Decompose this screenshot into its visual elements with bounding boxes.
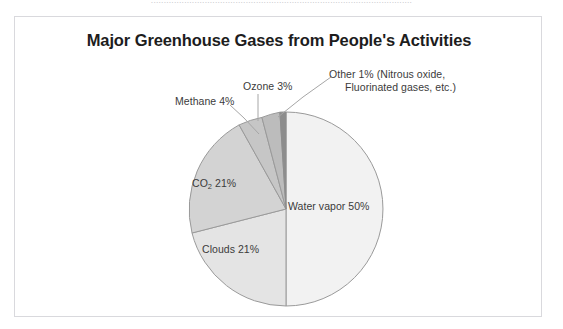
top-cropped-caption: ........................................…	[0, 0, 563, 9]
pie-callout-ozone: Ozone 3%	[243, 80, 292, 93]
pie-label-co2-subscript: 2	[208, 182, 212, 191]
pie-chart: Water vapor 50% Clouds 21% CO2 21% Metha…	[15, 17, 543, 318]
pie-label-co2: CO2 21%	[192, 177, 236, 189]
top-cropped-caption-text: ........................................…	[151, 0, 412, 5]
pie-label-co2-prefix: CO	[192, 177, 208, 189]
pie-label-clouds: Clouds 21%	[202, 243, 259, 255]
figure-frame: Major Greenhouse Gases from People's Act…	[14, 16, 542, 317]
pie-label-water-vapor: Water vapor 50%	[288, 200, 369, 212]
pie-callout-other-line1: Other 1% (Nitrous oxide,	[329, 68, 445, 80]
pie-chart-svg	[15, 17, 543, 318]
pie-callout-methane: Methane 4%	[175, 95, 234, 108]
pie-label-co2-suffix: 21%	[212, 177, 236, 189]
pie-callout-other-line2: Fluorinated gases, etc.)	[329, 81, 456, 94]
pie-callout-other: Other 1% (Nitrous oxide,Fluorinated gase…	[329, 68, 456, 94]
